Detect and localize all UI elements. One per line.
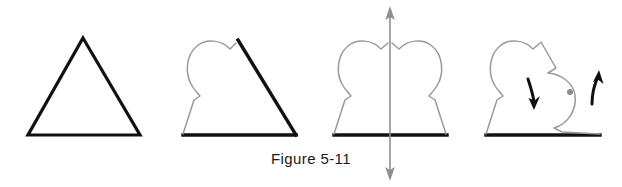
rotation-center-dot-4	[567, 89, 573, 95]
rotation-arrow-down-4	[528, 79, 540, 110]
figure-caption: Figure 5-11	[0, 150, 622, 167]
lobe-curve-left-3	[334, 41, 388, 134]
triangle-right-edge-2	[238, 40, 296, 135]
panel-1-original-triangle	[28, 38, 140, 135]
shape-upper-right-edge-4	[541, 42, 556, 73]
panel-4-rotation-shape	[486, 41, 604, 135]
panel-2-triangle-with-left-lobe	[183, 40, 296, 135]
lobe-curve-left-2	[183, 41, 236, 134]
rotation-arrow-up-4	[592, 70, 604, 104]
lobe-curve-right-3	[392, 41, 446, 134]
figure-container: Figure 5-11	[0, 0, 622, 187]
triangle-outline-1	[28, 38, 140, 135]
